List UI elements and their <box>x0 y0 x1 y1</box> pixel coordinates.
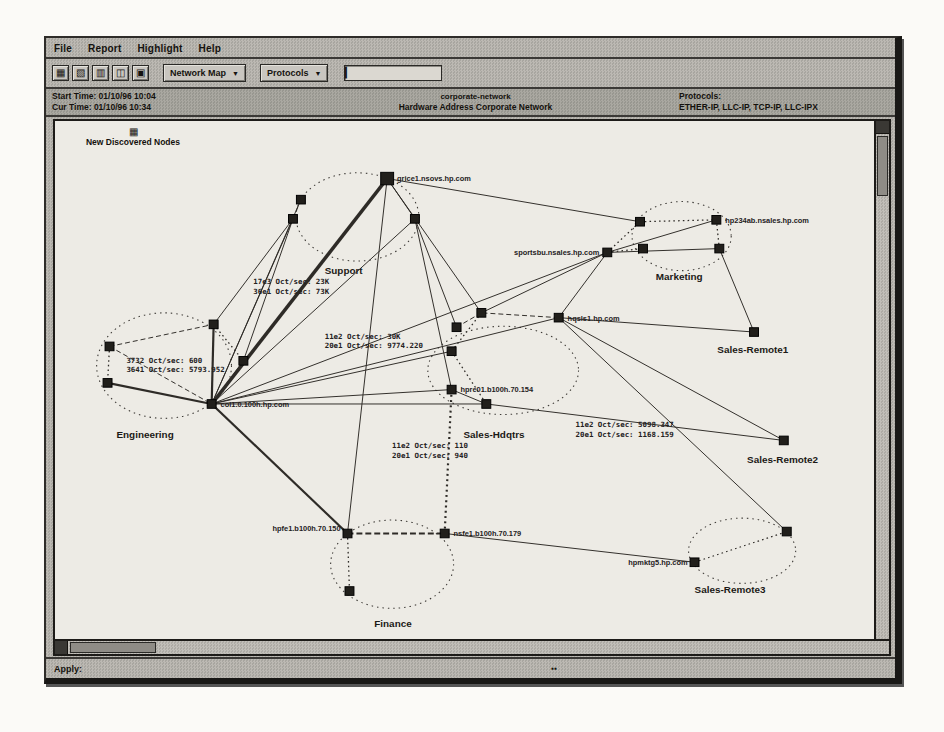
network-node[interactable] <box>482 400 491 409</box>
traffic-stat-line1: 11e2 Oct/sec: 5098.347 <box>576 420 674 429</box>
traffic-stat-line1: 3732 Oct/sec: 600 <box>126 356 202 365</box>
network-node[interactable] <box>750 328 759 337</box>
map-name-text: corporate-network <box>272 91 679 102</box>
print-icon[interactable]: ▣ <box>132 65 149 81</box>
network-link <box>481 313 558 318</box>
network-node[interactable] <box>690 558 699 567</box>
network-node[interactable] <box>636 217 645 226</box>
network-node[interactable] <box>105 342 114 351</box>
cluster-label: Engineering <box>116 429 173 440</box>
network-node[interactable] <box>410 215 419 224</box>
node-label: hqsls1.hp.com <box>568 314 620 323</box>
menu-item-highlight[interactable]: Highlight <box>137 43 182 54</box>
cluster-ellipse <box>689 518 796 583</box>
chevron-down-icon: ▼ <box>314 70 321 77</box>
start-time-text: Start Time: 01/10/96 10:04 <box>52 91 272 102</box>
vertical-scrollbar[interactable] <box>874 121 889 639</box>
node-label: sportsbu.nsales.hp.com <box>514 248 600 257</box>
traffic-stat-line2: 20e1 Oct/sec: 9774.220 <box>325 341 423 350</box>
horizontal-scrollbar[interactable] <box>55 639 889 654</box>
network-node[interactable] <box>440 529 449 538</box>
network-node[interactable] <box>782 527 791 536</box>
network-link <box>452 313 482 351</box>
map-title-text: Hardware Address Corporate Network <box>272 102 679 113</box>
menu-bar: FileReportHighlightHelp <box>46 38 895 59</box>
network-node[interactable] <box>381 172 394 184</box>
cluster-label: Sales-Hdqtrs <box>464 429 526 440</box>
node-label: hp234ab.nsales.hp.com <box>725 216 809 225</box>
current-time-text: Cur Time: 01/10/96 10:34 <box>52 102 272 113</box>
network-node[interactable] <box>296 195 305 204</box>
node-label: hpre01.b100h.70.154 <box>461 386 535 395</box>
text-caret-icon: ▎ <box>345 67 353 79</box>
scroll-up-arrow[interactable] <box>876 121 889 134</box>
protocols-list-text: ETHER-IP, LLC-IP, TCP-IP, LLC-IPX <box>679 102 889 113</box>
network-node[interactable] <box>477 309 486 318</box>
network-link <box>212 219 415 404</box>
menu-item-help[interactable]: Help <box>199 43 221 54</box>
network-map-dropdown[interactable]: Network Map ▼ <box>163 64 246 82</box>
network-node[interactable] <box>345 587 354 596</box>
menu-item-file[interactable]: File <box>54 43 72 54</box>
cluster-label: Sales-Remote1 <box>717 344 789 355</box>
protocols-dropdown[interactable]: Protocols ▼ <box>260 64 328 82</box>
cluster-label: Sales-Remote2 <box>747 455 819 466</box>
network-node[interactable] <box>239 356 248 365</box>
network-map-canvas[interactable]: ▦ New Discovered Nodes EngineeringSuppor… <box>55 121 874 639</box>
network-link <box>607 249 719 253</box>
info-header: Start Time: 01/10/96 10:04 Cur Time: 01/… <box>46 89 895 117</box>
status-bar: Apply: ▪▪ <box>46 657 895 678</box>
cluster-label: Sales-Remote3 <box>695 584 767 595</box>
traffic-stat-line1: 11e2 Oct/sec: 110 <box>392 441 468 450</box>
vertical-scroll-thumb[interactable] <box>877 136 888 196</box>
network-node[interactable] <box>452 323 461 332</box>
network-link <box>719 249 754 332</box>
network-link <box>415 219 457 327</box>
cluster-ellipse <box>632 202 731 271</box>
topology-svg: EngineeringSupportMarketingSales-HdqtrsF… <box>55 121 874 639</box>
status-left-text: Apply: <box>54 664 82 674</box>
network-monitor-window: FileReportHighlightHelp ▦▧▥◫▣ Network Ma… <box>44 36 902 684</box>
network-link <box>445 390 452 534</box>
network-link <box>387 179 640 222</box>
scroll-left-arrow[interactable] <box>55 641 68 654</box>
traffic-stat-line2: 20e1 Oct/sec: 940 <box>392 451 468 460</box>
map-viewport: ▦ New Discovered Nodes EngineeringSuppor… <box>53 119 891 656</box>
network-node[interactable] <box>639 244 648 253</box>
chevron-down-icon: ▼ <box>232 70 239 77</box>
network-link <box>110 324 214 346</box>
node-list-icon[interactable]: ◫ <box>112 65 129 81</box>
menu-item-report[interactable]: Report <box>88 43 121 54</box>
traffic-stat-line2: 20e1 Oct/sec: 1168.159 <box>576 430 674 439</box>
network-node[interactable] <box>712 215 721 224</box>
network-node[interactable] <box>603 248 612 257</box>
network-node[interactable] <box>779 436 788 445</box>
network-node[interactable] <box>289 215 298 224</box>
new-nodes-label: New Discovered Nodes <box>73 137 193 147</box>
protocols-label: Protocols: <box>679 91 889 102</box>
new-discovered-nodes[interactable]: ▦ New Discovered Nodes <box>73 127 193 147</box>
traffic-stat-line1: 11e2 Oct/sec: 30K <box>325 332 402 341</box>
map-grid-icon[interactable]: ▦ <box>52 65 69 81</box>
network-node[interactable] <box>343 529 352 538</box>
node-label: grice1.nsovs.hp.com <box>397 175 471 184</box>
network-link <box>695 532 787 563</box>
network-link <box>452 351 487 404</box>
network-node[interactable] <box>103 379 112 388</box>
network-link <box>212 324 214 404</box>
network-node[interactable] <box>209 320 218 329</box>
traffic-stat-line1: 17e3 Oct/sec: 23K <box>253 277 330 286</box>
cluster-label: Finance <box>374 618 412 629</box>
network-node[interactable] <box>554 313 563 322</box>
layout-icon[interactable]: ▥ <box>92 65 109 81</box>
network-node[interactable] <box>447 347 456 356</box>
network-link <box>348 179 388 534</box>
network-node[interactable] <box>207 400 216 409</box>
network-node[interactable] <box>447 385 456 394</box>
filter-input[interactable] <box>353 66 437 80</box>
horizontal-scroll-thumb[interactable] <box>70 642 156 653</box>
traffic-stat-line2: 36e1 Oct/sec: 73K <box>253 287 330 296</box>
network-map-dropdown-label: Network Map <box>170 68 226 78</box>
new-window-icon[interactable]: ▧ <box>72 65 89 81</box>
network-node[interactable] <box>715 244 724 253</box>
